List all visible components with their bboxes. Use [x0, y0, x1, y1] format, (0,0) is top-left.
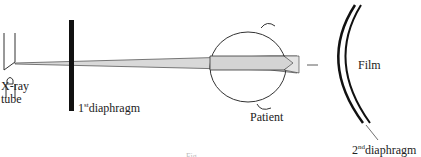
first-diaphragm-label: 1stdiaphragm [78, 99, 140, 115]
second-diaphragm-label: 2nddiaphragm [352, 141, 416, 157]
figure-caption: Fig. [186, 150, 199, 157]
first-diaphragm [69, 20, 74, 111]
patient-label: Patient [250, 111, 283, 124]
film-label: Film [358, 59, 381, 72]
diagram-drawing [0, 0, 421, 157]
beam-in-patient [210, 56, 297, 70]
xray-diagram: X-ray tube 1stdiaphragm Patient Film 2nd… [0, 0, 421, 157]
xray-tube-label: X-ray tube [1, 80, 21, 106]
